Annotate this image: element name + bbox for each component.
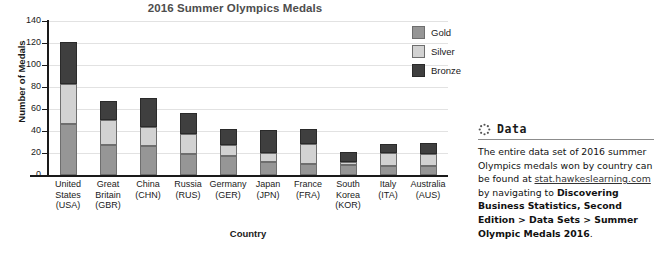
data-text-part-2: by navigating to <box>478 187 557 198</box>
bar-1[interactable] <box>60 21 77 175</box>
legend-label: Bronze <box>431 65 461 76</box>
bar-segment-bronze[interactable] <box>60 42 77 84</box>
bar-segment-gold[interactable] <box>220 156 237 175</box>
bar-segment-gold[interactable] <box>380 166 397 175</box>
data-callout-panel: Data The entire data set of 2016 summer … <box>478 122 654 240</box>
bar-segment-silver[interactable] <box>380 153 397 166</box>
legend-item-gold[interactable]: Gold <box>412 26 470 39</box>
bar-2[interactable] <box>100 21 117 175</box>
y-tick-mark <box>42 21 48 22</box>
y-axis-tick-labels: 020406080100120140 <box>0 0 41 255</box>
bar-segment-silver[interactable] <box>220 145 237 156</box>
bar-segment-bronze[interactable] <box>260 130 277 153</box>
dotted-circle-icon <box>478 123 491 136</box>
chart-panel: 2016 Summer Olympics Medals Number of Me… <box>0 0 470 255</box>
y-tick-mark <box>42 87 48 88</box>
bar-4[interactable] <box>180 21 197 175</box>
bar-segment-gold[interactable] <box>100 145 117 175</box>
y-tick-label: 20 <box>1 147 41 157</box>
y-tick-mark <box>42 153 48 154</box>
bar-segment-silver[interactable] <box>260 153 277 162</box>
y-tick-mark <box>42 65 48 66</box>
bar-segment-bronze[interactable] <box>140 98 157 127</box>
legend-swatch-gold <box>412 26 425 39</box>
bar-segment-gold[interactable] <box>260 162 277 175</box>
y-tick-label: 60 <box>1 103 41 113</box>
bar-5[interactable] <box>220 21 237 175</box>
data-source-link[interactable]: stat.hawkeslearning.com <box>534 173 650 184</box>
y-tick-mark <box>42 175 48 176</box>
legend: GoldSilverBronze <box>412 26 470 83</box>
bar-segment-silver[interactable] <box>180 134 197 154</box>
bar-segment-gold[interactable] <box>300 164 317 175</box>
bar-segment-bronze[interactable] <box>420 143 437 154</box>
bar-3[interactable] <box>140 21 157 175</box>
bar-segment-bronze[interactable] <box>220 129 237 146</box>
data-text-part-3: . <box>590 228 593 239</box>
bar-segment-gold[interactable] <box>180 154 197 175</box>
y-tick-mark <box>42 131 48 132</box>
bar-segment-silver[interactable] <box>340 162 357 165</box>
y-tick-label: 40 <box>1 125 41 135</box>
bar-segment-silver[interactable] <box>300 144 317 164</box>
legend-swatch-silver <box>412 45 425 58</box>
y-tick-mark <box>42 109 48 110</box>
bar-segment-bronze[interactable] <box>380 144 397 153</box>
y-tick-label: 0 <box>1 169 41 179</box>
y-tick-label: 140 <box>1 15 41 25</box>
bar-7[interactable] <box>300 21 317 175</box>
bar-segment-bronze[interactable] <box>300 129 317 144</box>
bar-8[interactable] <box>340 21 357 175</box>
bar-segment-gold[interactable] <box>420 166 437 175</box>
bar-segment-gold[interactable] <box>60 124 77 175</box>
legend-label: Gold <box>431 27 451 38</box>
bar-6[interactable] <box>260 21 277 175</box>
y-tick-mark <box>42 43 48 44</box>
y-tick-label: 80 <box>1 81 41 91</box>
bar-segment-bronze[interactable] <box>340 152 357 162</box>
data-callout-heading: Data <box>497 122 527 136</box>
bar-segment-bronze[interactable] <box>180 113 197 134</box>
legend-swatch-bronze <box>412 64 425 77</box>
y-tick-label: 120 <box>1 37 41 47</box>
data-callout-divider <box>478 139 654 140</box>
legend-item-silver[interactable]: Silver <box>412 45 470 58</box>
data-callout-header: Data <box>478 122 654 139</box>
bar-segment-bronze[interactable] <box>100 101 117 120</box>
chart-title: 2016 Summer Olympics Medals <box>0 2 470 14</box>
x-category-label: Australia(AUS) <box>405 179 451 200</box>
plot-area <box>48 21 448 175</box>
bar-segment-silver[interactable] <box>140 127 157 147</box>
legend-label: Silver <box>431 46 455 57</box>
bar-9[interactable] <box>380 21 397 175</box>
bar-segment-gold[interactable] <box>140 146 157 175</box>
y-tick-label: 100 <box>1 59 41 69</box>
bar-segment-silver[interactable] <box>420 154 437 166</box>
x-axis-line <box>30 175 448 177</box>
legend-item-bronze[interactable]: Bronze <box>412 64 470 77</box>
x-axis-label: Country <box>48 228 448 239</box>
bar-segment-silver[interactable] <box>100 120 117 145</box>
bar-segment-gold[interactable] <box>340 165 357 175</box>
data-callout-body: The entire data set of 2016 summer Olymp… <box>478 145 654 240</box>
bar-segment-silver[interactable] <box>60 84 77 125</box>
